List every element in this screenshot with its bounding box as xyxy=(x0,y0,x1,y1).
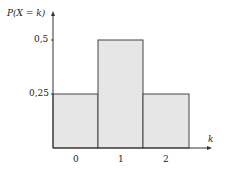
chart-canvas xyxy=(0,0,227,172)
bar-1 xyxy=(98,40,143,148)
xtick-label-1: 1 xyxy=(118,154,124,164)
bar-0 xyxy=(53,94,98,148)
bar-2 xyxy=(143,94,189,148)
x-axis-label: k xyxy=(208,134,213,144)
bars xyxy=(53,40,189,148)
y-axis-arrow-icon xyxy=(51,11,55,16)
y-axis-label: P(X = k) xyxy=(7,8,45,18)
x-axis-arrow-icon xyxy=(207,146,212,150)
xtick-label-0: 0 xyxy=(73,154,79,164)
ytick-label-low: 0,25 xyxy=(29,88,49,98)
ytick-label-high: 0,5 xyxy=(34,34,48,44)
xtick-label-2: 2 xyxy=(163,154,169,164)
